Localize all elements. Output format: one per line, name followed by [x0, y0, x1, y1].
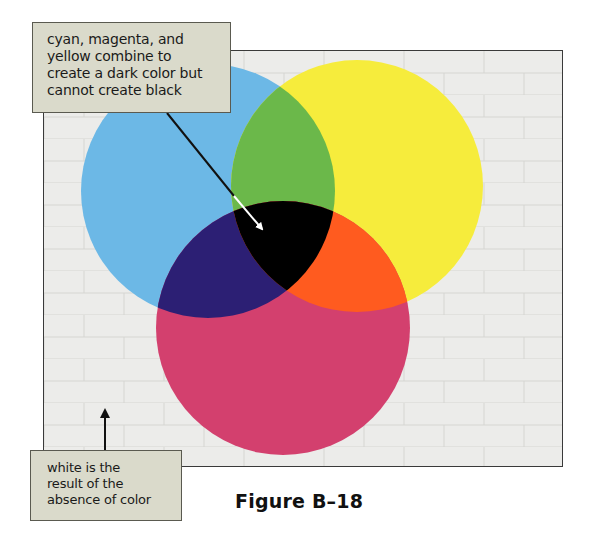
- callout-text-line: yellow combine to: [47, 48, 220, 65]
- callout-dark-color: cyan, magenta, and yellow combine to cre…: [32, 22, 231, 113]
- callout-text-line: cyan, magenta, and: [47, 31, 220, 48]
- figure-caption: Figure B–18: [235, 490, 363, 512]
- color-mixing-diagram: [44, 51, 563, 467]
- callout-text-line: white is the: [47, 460, 173, 476]
- callout-white-absence: white is the result of the absence of co…: [30, 450, 182, 521]
- callout-text-line: absence of color: [47, 492, 173, 508]
- callout-text-line: result of the: [47, 476, 173, 492]
- callout-text-line: create a dark color but: [47, 65, 220, 82]
- callout-text-line: cannot create black: [47, 82, 220, 99]
